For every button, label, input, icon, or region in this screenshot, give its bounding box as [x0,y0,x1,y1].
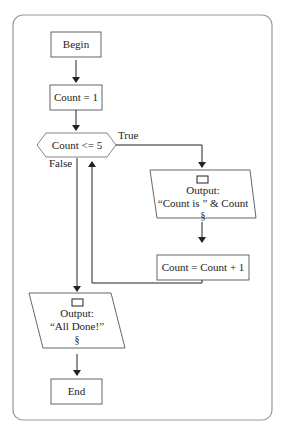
end-label: End [51,385,102,398]
decision-label: Count <= 5 [40,139,114,152]
output2-line1: Output: [29,307,125,320]
output2-line3: § [29,333,125,346]
true-label: True [118,129,138,142]
begin-label: Begin [51,38,101,51]
output2-line2: “All Done!” [29,320,125,333]
output1-line1: Output: [150,184,256,197]
false-label: False [49,157,72,170]
output1-line3: § [150,209,256,222]
init-label: Count = 1 [50,91,102,104]
increment-label: Count = Count + 1 [157,261,249,274]
